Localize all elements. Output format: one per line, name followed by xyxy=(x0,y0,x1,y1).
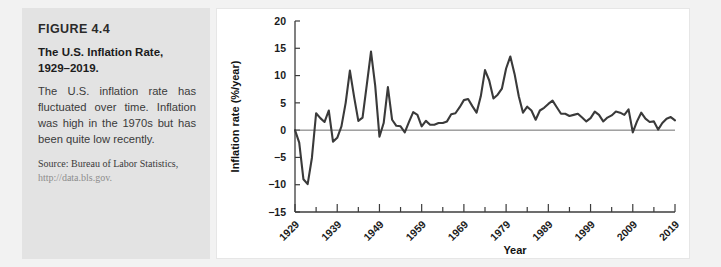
y-axis-tick-labels: 20151050−5−10−15 xyxy=(268,15,286,218)
y-tick-label: 15 xyxy=(274,42,286,54)
x-tick-label: 1939 xyxy=(319,218,344,243)
inflation-series-line xyxy=(295,52,675,185)
y-tick-label: 5 xyxy=(280,97,286,109)
figure-source-url: http://data.bls.gov. xyxy=(38,171,196,185)
y-tick-label: −5 xyxy=(274,151,286,163)
x-tick-label: 1989 xyxy=(530,218,555,243)
y-tick-label: 10 xyxy=(274,69,286,81)
y-tick-label: 20 xyxy=(274,15,286,27)
x-tick-label: 1969 xyxy=(445,218,470,243)
figure-description: The U.S. inflation rate has fluctuated o… xyxy=(38,84,196,148)
x-tick-label: 2009 xyxy=(614,218,639,243)
chart-panel: 20151050−5−10−15 19291939194919591969197… xyxy=(216,8,690,259)
x-tick-label: 1979 xyxy=(488,218,513,243)
figure-title: The U.S. Inflation Rate, 1929–2019. xyxy=(38,45,196,76)
x-tick-label: 1959 xyxy=(403,218,428,243)
x-tick-label: 1949 xyxy=(361,218,386,243)
axis-tick-marks xyxy=(295,21,675,212)
x-axis-tick-labels: 1929193919491959196919791989199920092019 xyxy=(276,218,681,243)
figure-source-line: Source: Bureau of Labor Statistics, xyxy=(38,157,196,171)
x-axis-title: Year xyxy=(503,244,527,256)
figure-number-label: FIGURE 4.4 xyxy=(38,22,196,36)
x-tick-label: 2019 xyxy=(656,218,681,243)
y-tick-label: −15 xyxy=(268,206,286,218)
y-axis-title: Inflation rate (%/year) xyxy=(229,60,241,172)
x-tick-label: 1999 xyxy=(572,218,597,243)
figure-caption-panel: FIGURE 4.4 The U.S. Inflation Rate, 1929… xyxy=(22,8,210,259)
y-tick-label: −10 xyxy=(268,178,286,190)
y-tick-label: 0 xyxy=(280,124,286,136)
inflation-line-chart: 20151050−5−10−15 19291939194919591969197… xyxy=(217,9,689,258)
figure-container: FIGURE 4.4 The U.S. Inflation Rate, 1929… xyxy=(0,0,721,267)
x-tick-label: 1929 xyxy=(276,218,301,243)
